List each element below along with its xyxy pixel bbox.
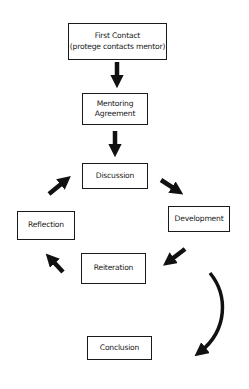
arrow-curved-to-conclusion xyxy=(200,273,222,352)
node-reflection: Reflection xyxy=(17,211,75,240)
node-discussion: Discussion xyxy=(82,163,148,189)
node-first-contact: First Contact (protege contacts mentor) xyxy=(68,23,167,60)
node-conclusion: Conclusion xyxy=(87,336,152,360)
arrow-reflection-to-discussion xyxy=(49,180,66,194)
node-reiteration: Reiteration xyxy=(81,253,146,284)
arrow-discussion-to-development xyxy=(161,180,178,191)
node-development: Development xyxy=(168,206,230,232)
arrow-development-to-reiteration xyxy=(168,249,185,262)
arrow-reiteration-to-reflection xyxy=(50,258,63,272)
node-mentoring-agreement: Mentoring Agreement xyxy=(82,93,148,125)
